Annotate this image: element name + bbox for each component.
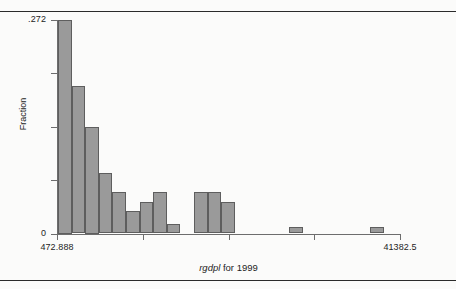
histogram-bar: [370, 227, 384, 233]
page-rule-bottom: [0, 280, 456, 281]
histogram-bar: [140, 202, 154, 233]
histogram-bar: [208, 192, 222, 234]
histogram-bar: [99, 173, 113, 233]
histogram-bar: [167, 224, 181, 233]
histogram-figure: .2720 472.88841382.5 Fraction rgdpl for …: [0, 12, 456, 279]
histogram-bar: [289, 227, 303, 233]
histogram-bar: [85, 127, 99, 234]
x-axis-title: rgdpl for 1999: [57, 262, 400, 273]
y-axis-title: Fraction: [18, 79, 28, 149]
x-axis-title-rest: for 1999: [220, 262, 258, 273]
histogram-bar: [221, 202, 235, 233]
histogram-bar: [58, 20, 72, 234]
histogram-bar: [194, 192, 208, 234]
histogram-bar: [153, 192, 167, 234]
histogram-bar: [126, 211, 140, 234]
x-axis-title-variable: rgdpl: [199, 262, 220, 273]
histogram-bar: [72, 86, 86, 234]
histogram-bar: [112, 192, 126, 234]
histogram-bars: [0, 12, 456, 279]
